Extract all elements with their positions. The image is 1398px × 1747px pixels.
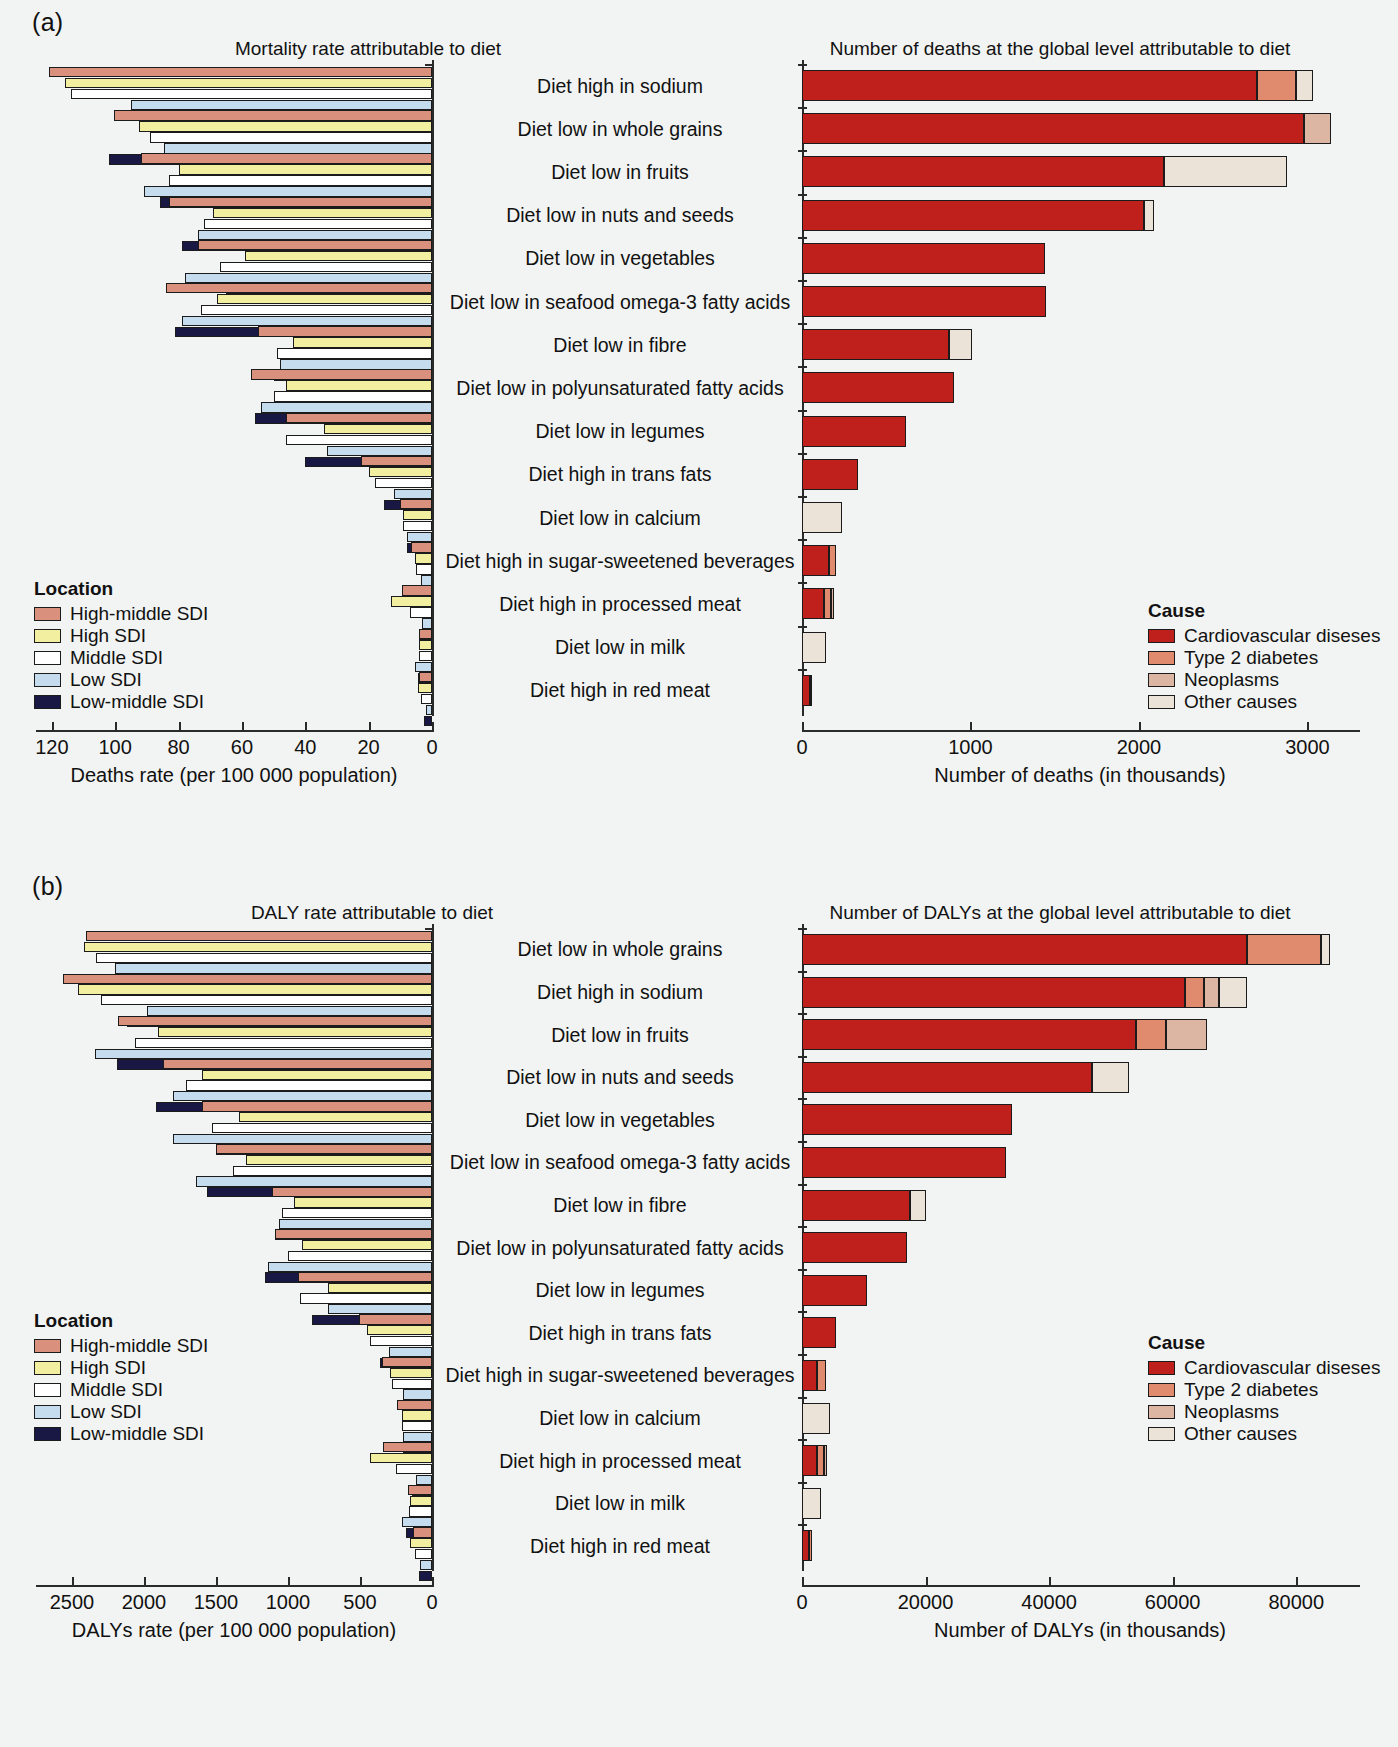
bar [49, 67, 432, 77]
x-tick [1173, 1577, 1175, 1585]
x-tick [432, 1577, 434, 1585]
x-axis-caption: Number of DALYs (in thousands) [934, 1619, 1226, 1642]
bar [150, 132, 432, 142]
category-label: Diet low in legumes [535, 420, 704, 443]
legend-item[interactable]: Low-middle SDI [34, 691, 208, 713]
x-tick-label: 40000 [1021, 1591, 1077, 1614]
bar [419, 672, 432, 682]
category-label: Diet low in fibre [553, 1193, 686, 1216]
category-label: Diet low in seafood omega-3 fatty acids [450, 290, 790, 313]
bar-segment [802, 1317, 836, 1348]
legend-item[interactable]: Middle SDI [34, 1379, 208, 1401]
x-tick-label: 80 [167, 736, 189, 759]
x-tick [802, 722, 804, 730]
x-tick-label: 40 [294, 736, 316, 759]
legend-item[interactable]: Neoplasms [1148, 669, 1380, 691]
legend-item[interactable]: Other causes [1148, 691, 1380, 713]
panel-a-cause-legend: Cause Cardiovascular disesesType 2 diabe… [1148, 600, 1380, 713]
bar-group [800, 366, 1360, 409]
bar-group [34, 1141, 434, 1184]
category-label: Diet high in red meat [530, 679, 710, 702]
panel-b-right-plot: 020000400006000080000Number of DALYs (in… [800, 924, 1360, 1569]
legend-swatch [34, 1405, 61, 1419]
bar-group [34, 1013, 434, 1056]
bar [118, 1016, 432, 1026]
legend-item[interactable]: Other causes [1148, 1423, 1380, 1445]
bar-segment [910, 1190, 925, 1221]
legend-item[interactable]: Type 2 diabetes [1148, 1379, 1380, 1401]
x-tick [926, 1577, 928, 1585]
legend-swatch [34, 1361, 61, 1375]
bar [397, 1400, 432, 1410]
bar [71, 89, 432, 99]
bar-group [34, 410, 434, 453]
bar [186, 1080, 432, 1090]
bar [396, 1464, 432, 1474]
legend-item[interactable]: High SDI [34, 625, 208, 647]
legend-item-label: Low-middle SDI [70, 691, 204, 713]
bar-group [34, 453, 434, 496]
bar [272, 1187, 432, 1197]
legend-swatch [34, 1427, 61, 1441]
legend-item[interactable]: Neoplasms [1148, 1401, 1380, 1423]
x-tick [216, 1577, 218, 1585]
bar [274, 391, 432, 401]
bar-segment [1257, 70, 1296, 101]
bar-segment [802, 1445, 817, 1476]
bar-group [800, 64, 1360, 107]
legend-item-label: Middle SDI [70, 1379, 163, 1401]
bar-group [800, 280, 1360, 323]
bar-segment [802, 286, 1046, 317]
bar-segment [1144, 200, 1154, 231]
bar [84, 942, 432, 952]
x-tick [1049, 1577, 1051, 1585]
bar-group [34, 1098, 434, 1141]
bar-group [800, 1013, 1360, 1056]
bar [179, 164, 432, 174]
legend-item[interactable]: High-middle SDI [34, 1335, 208, 1357]
legend-item[interactable]: Cardiovascular diseses [1148, 1357, 1380, 1379]
legend-item[interactable]: Type 2 diabetes [1148, 647, 1380, 669]
legend-item-label: High-middle SDI [70, 603, 208, 625]
legend-item[interactable]: Low SDI [34, 1401, 208, 1423]
panel-b-category-labels: Diet low in whole grainsDiet high in sod… [440, 924, 800, 1569]
x-axis-caption: Deaths rate (per 100 000 population) [71, 764, 398, 787]
bar [410, 607, 432, 617]
bar [419, 629, 432, 639]
x-axis [36, 730, 434, 732]
bar-segment [1304, 113, 1331, 144]
legend-item[interactable]: Low-middle SDI [34, 1423, 208, 1445]
bar-segment [802, 502, 842, 533]
panel-a-category-labels: Diet high in sodiumDiet low in whole gra… [440, 60, 800, 715]
bar [245, 251, 432, 261]
x-axis [802, 1585, 1360, 1587]
legend-item[interactable]: Middle SDI [34, 647, 208, 669]
bar-group [800, 1269, 1360, 1312]
legend-title-location: Location [34, 1310, 208, 1332]
legend-item[interactable]: High-middle SDI [34, 603, 208, 625]
bar [63, 974, 432, 984]
category-label: Diet low in whole grains [518, 117, 723, 140]
panel-b-right-chart-title: Number of DALYs at the global level attr… [780, 902, 1340, 924]
legend-item[interactable]: High SDI [34, 1357, 208, 1379]
x-tick [1307, 722, 1309, 730]
legend-item-label: Type 2 diabetes [1184, 1379, 1318, 1401]
bar [217, 294, 432, 304]
bar [78, 984, 432, 994]
legend-item[interactable]: Cardiovascular diseses [1148, 625, 1380, 647]
bar [114, 110, 432, 120]
bar [135, 1038, 432, 1048]
bar [402, 585, 432, 595]
x-tick-label: 0 [426, 736, 437, 759]
bar [416, 564, 432, 574]
x-tick-label: 0 [796, 736, 807, 759]
bar-segment [1296, 70, 1313, 101]
x-tick [144, 1577, 146, 1585]
bar-group [800, 150, 1360, 193]
legend-item[interactable]: Low SDI [34, 669, 208, 691]
legend-swatch [34, 651, 61, 665]
bar-segment [802, 156, 1164, 187]
x-tick [970, 722, 972, 730]
bar [239, 1112, 432, 1122]
bar [421, 694, 432, 704]
